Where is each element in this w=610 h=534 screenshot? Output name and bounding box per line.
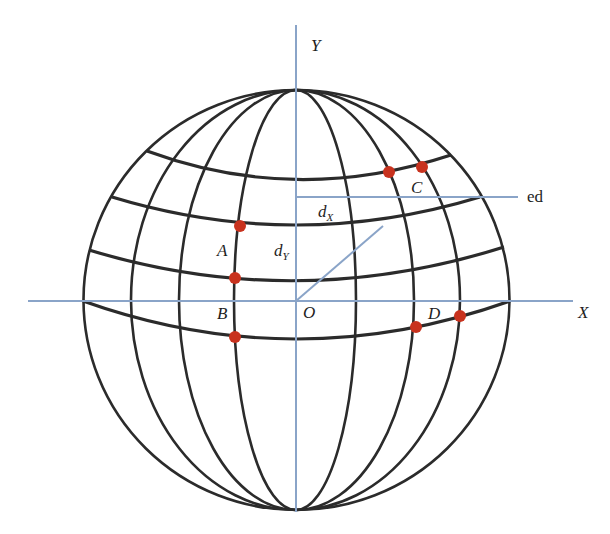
point-label-c: C <box>411 178 423 197</box>
dx-subscript: X <box>326 211 335 223</box>
point-b-bottom <box>229 331 241 343</box>
dy-subscript: Y <box>283 250 291 262</box>
sphere-grid-diagram: Y X O ed A B C D dX dY <box>0 0 610 534</box>
dx-label: dX <box>318 202 335 223</box>
y-axis-label: Y <box>311 36 322 55</box>
radius-line <box>296 226 383 301</box>
point-c-right <box>416 161 428 173</box>
point-d-left <box>410 321 422 333</box>
latitude-1 <box>147 151 451 180</box>
point-c-left <box>383 166 395 178</box>
ed-label: ed <box>527 187 544 206</box>
point-d-right <box>454 310 466 322</box>
origin-label: O <box>303 303 315 322</box>
point-a-top <box>234 220 246 232</box>
point-label-d: D <box>427 304 441 323</box>
x-axis-label: X <box>577 303 589 322</box>
point-a-bottom <box>229 272 241 284</box>
point-label-a: A <box>216 241 228 260</box>
point-label-b: B <box>217 304 228 323</box>
dy-label: dY <box>274 241 291 262</box>
